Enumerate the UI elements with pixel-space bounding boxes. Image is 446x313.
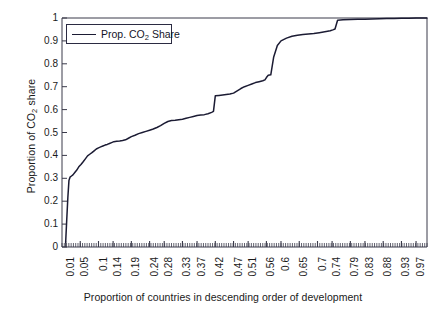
x-tick-label: 0.33 xyxy=(182,257,192,297)
legend-label-subscript: 2 xyxy=(145,33,149,42)
x-tick-label: 0.51 xyxy=(248,257,258,297)
x-tick-label: 0.88 xyxy=(383,257,393,297)
x-tick-label: 0.05 xyxy=(80,257,90,297)
x-tick-label: 0.28 xyxy=(164,257,174,297)
x-tick-label: 0.79 xyxy=(350,257,360,297)
legend-label-pre: Prop. CO xyxy=(101,28,145,40)
legend-box: Prop. CO2 Share xyxy=(66,24,172,44)
x-tick-label: 0.24 xyxy=(150,257,160,297)
legend-label: Prop. CO2 Share xyxy=(101,28,180,40)
x-tick-label: 0.42 xyxy=(215,257,225,297)
x-tick-label: 0.97 xyxy=(416,257,426,297)
x-tick-label: 0.01 xyxy=(66,257,76,297)
x-axis-tick-labels: 0.010.050.10.140.190.240.280.330.370.420… xyxy=(0,0,446,313)
x-tick-label: 0.47 xyxy=(234,257,244,297)
legend-line-swatch xyxy=(72,34,96,35)
x-tick-label: 0.74 xyxy=(332,257,342,297)
legend-label-post: Share xyxy=(149,28,180,40)
x-tick-label: 0.19 xyxy=(131,257,141,297)
x-tick-label: 0.93 xyxy=(401,257,411,297)
x-tick-label: 0.83 xyxy=(365,257,375,297)
x-tick-label: 0.56 xyxy=(266,257,276,297)
x-tick-label: 0.37 xyxy=(197,257,207,297)
x-tick-label: 0.14 xyxy=(113,257,123,297)
chart-figure: Proportion of CO2 share Proportion of co… xyxy=(0,0,446,313)
x-tick-label: 0.65 xyxy=(299,257,309,297)
x-tick-label: 0.7 xyxy=(318,257,328,297)
x-tick-label: 0.6 xyxy=(281,257,291,297)
x-tick-label: 0.1 xyxy=(99,257,109,297)
